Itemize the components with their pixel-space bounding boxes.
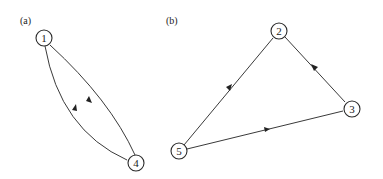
node-2-label: 2: [276, 25, 282, 37]
panel-a-label: (a): [20, 15, 31, 27]
node-1: 1: [36, 30, 52, 46]
edge-2-to-5: [184, 38, 273, 145]
arrow-4-to-1-icon: [86, 96, 92, 103]
arrow-3-to-2-icon: [311, 64, 318, 71]
node-1-label: 1: [41, 32, 47, 44]
panel-b-label: (b): [166, 15, 178, 27]
node-5: 5: [171, 143, 187, 159]
node-5-label: 5: [176, 145, 182, 157]
graph-diagram: (a) 1 4 (b) 2 3: [0, 0, 383, 179]
arrow-1-to-4-icon: [72, 104, 77, 111]
node-3: 3: [344, 101, 360, 117]
node-2: 2: [271, 23, 287, 39]
node-3-label: 3: [349, 103, 355, 115]
arrow-2-to-5-icon: [226, 84, 232, 91]
node-4: 4: [128, 155, 144, 171]
edge-1-to-4: [45, 46, 127, 160]
panel-b: (b) 2 3 5: [166, 15, 360, 159]
panel-a: (a) 1 4: [20, 15, 144, 171]
node-4-label: 4: [133, 157, 139, 169]
arrow-5-to-3-icon: [264, 127, 270, 132]
